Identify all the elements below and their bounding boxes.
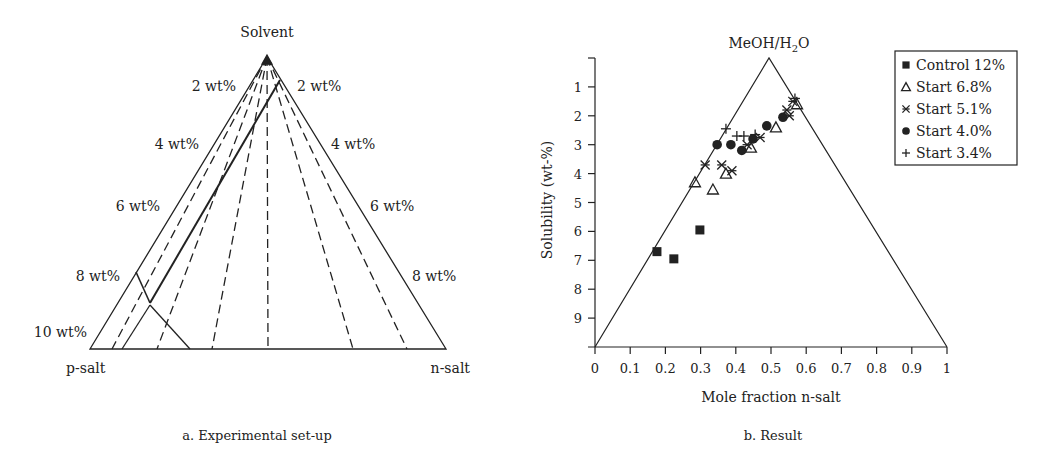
y-tick-label: 6 xyxy=(574,224,582,239)
y-tick-label: 1 xyxy=(574,80,582,95)
axes xyxy=(588,58,947,354)
operating-path xyxy=(122,80,280,349)
left-scale-label: 10 wt% xyxy=(34,324,87,340)
right-scale-label: 4 wt% xyxy=(331,136,375,152)
x-tick-label: 0.7 xyxy=(831,361,852,376)
y-ticks xyxy=(588,87,595,318)
left-scale-label: 8 wt% xyxy=(76,268,120,284)
apex-mark xyxy=(262,55,272,64)
y-tick-label: 9 xyxy=(574,311,582,326)
left-scale-label: 6 wt% xyxy=(116,198,160,214)
x-tick-label: 1 xyxy=(943,361,951,376)
left-scale-label: 2 wt% xyxy=(192,78,236,94)
right-scale-label: 8 wt% xyxy=(412,268,456,284)
x-tick-label: 0 xyxy=(591,361,599,376)
panel-a-labels: Solvent 2 wt% 4 wt% 6 wt% 8 wt% 10 wt% 2… xyxy=(34,24,471,443)
legend-item: Start 4.0% xyxy=(902,123,992,139)
x-tick-label: 0.6 xyxy=(796,361,817,376)
x-tick-label: 0.4 xyxy=(725,361,746,376)
y-tick-label: 4 xyxy=(574,167,582,182)
legend-label: Start 6.8% xyxy=(916,79,992,95)
y-tick-labels: 123456789 xyxy=(574,80,582,326)
x-tick-label: 0.3 xyxy=(690,361,711,376)
x-tick-label: 0.2 xyxy=(655,361,676,376)
y-tick-label: 2 xyxy=(574,109,582,124)
legend: Control 12%Start 6.8%Start 5.1%Start 4.0… xyxy=(895,51,1017,165)
panel-b-caption: b. Result xyxy=(744,428,803,443)
left-scale-label: 4 wt% xyxy=(155,136,199,152)
y-tick-label: 3 xyxy=(574,138,582,153)
x-ticks xyxy=(595,347,947,354)
legend-label: Start 4.0% xyxy=(916,123,992,139)
y-tick-label: 5 xyxy=(574,196,582,211)
legend-item: Start 6.8% xyxy=(902,79,992,95)
legend-item: Start 3.4% xyxy=(902,145,992,161)
series-asterisk xyxy=(701,97,798,175)
x-tick-label: 0.8 xyxy=(866,361,887,376)
corner-label-n-salt: n-salt xyxy=(431,360,471,376)
panel-a-caption: a. Experimental set-up xyxy=(182,428,332,443)
y-tick-label: 8 xyxy=(574,282,582,297)
y-axis-label: Solubility (wt-%) xyxy=(539,141,555,259)
panel-b-scatter: 00.10.20.30.40.50.60.70.80.91 123456789 … xyxy=(539,35,1017,443)
legend-item: Control 12% xyxy=(902,57,1005,73)
y-tick-label: 7 xyxy=(574,253,582,268)
x-tick-label: 0.1 xyxy=(620,361,641,376)
ternary-outline xyxy=(595,58,947,347)
x-axis-label: Mole fraction n-salt xyxy=(701,389,841,405)
legend-item: Start 5.1% xyxy=(902,101,992,117)
x-tick-label: 0.9 xyxy=(901,361,922,376)
corner-label-p-salt: p-salt xyxy=(66,360,106,376)
legend-label: Start 5.1% xyxy=(916,101,992,117)
x-tick-label: 0.5 xyxy=(761,361,782,376)
right-scale-label: 6 wt% xyxy=(370,198,414,214)
figure: Solvent 2 wt% 4 wt% 6 wt% 8 wt% 10 wt% 2… xyxy=(0,0,1060,464)
series-square xyxy=(652,225,704,263)
data-points xyxy=(652,93,802,263)
x-tick-labels: 00.10.20.30.40.50.60.70.80.91 xyxy=(591,361,951,376)
apex-label-solvent: Solvent xyxy=(240,24,294,40)
right-scale-label: 2 wt% xyxy=(297,78,341,94)
legend-label: Start 3.4% xyxy=(916,145,992,161)
legend-label: Control 12% xyxy=(916,57,1005,73)
apex-label-meoh-h2o: MeOH/H2O xyxy=(728,35,809,54)
